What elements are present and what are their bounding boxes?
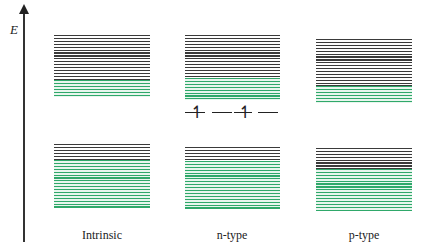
n-type-conduction-band-empty	[185, 35, 280, 78]
intrinsic-valence-band-empty	[54, 144, 150, 160]
p-type-conduction-band-empty	[316, 39, 412, 86]
intrinsic-label: Intrinsic	[52, 228, 152, 243]
electron-spin-icon: ↿	[238, 104, 252, 121]
n-type-valence-band-filled	[185, 161, 280, 209]
p-type-label: p-type	[314, 228, 414, 243]
energy-axis	[23, 10, 25, 242]
intrinsic-conduction-band-filled	[54, 80, 150, 97]
n-type-label: n-type	[182, 228, 282, 243]
intrinsic-valence-band-filled	[54, 160, 150, 208]
electron-spin-icon: ↿	[190, 104, 204, 121]
arrow-up-icon	[19, 4, 29, 14]
donor-level-dash	[258, 112, 278, 113]
n-type-conduction-band-filled	[185, 78, 280, 100]
n-type-valence-band-empty	[185, 147, 280, 161]
p-type-conduction-band-filled	[316, 86, 412, 103]
donor-level-dash	[212, 112, 232, 113]
intrinsic-conduction-band-empty	[54, 35, 150, 80]
p-type-valence-band-empty	[316, 148, 412, 169]
energy-axis-label: E	[10, 22, 18, 38]
p-type-valence-band-filled	[316, 169, 412, 211]
